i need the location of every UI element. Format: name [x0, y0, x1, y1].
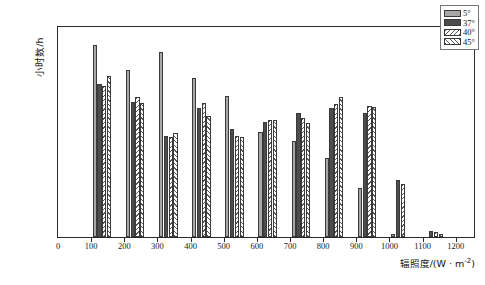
- x-axis-tick-label: 1100: [414, 241, 431, 251]
- bar: [372, 107, 376, 237]
- legend-item: 45°: [444, 37, 475, 46]
- bar: [169, 137, 173, 237]
- x-axis-tick-mark: [191, 238, 192, 242]
- legend: 5°37°40°45°: [440, 5, 479, 50]
- bar: [301, 118, 305, 237]
- x-axis-tick-label: 200: [118, 241, 131, 251]
- bar: [126, 70, 130, 237]
- x-axis-tick-mark: [356, 238, 357, 242]
- bar: [102, 86, 106, 237]
- x-axis-tick-mark: [91, 238, 92, 242]
- bar: [367, 106, 371, 237]
- legend-label: 37°: [463, 19, 475, 27]
- bar: [358, 188, 362, 237]
- bar: [401, 184, 405, 237]
- bar: [159, 52, 163, 238]
- bar: [206, 116, 210, 237]
- bar: [396, 180, 400, 237]
- bar: [273, 120, 277, 237]
- bar: [429, 231, 433, 237]
- x-axis-tick-label: 400: [184, 241, 197, 251]
- x-axis-tick-label: 600: [251, 241, 264, 251]
- x-axis-title-tail: ): [471, 258, 475, 269]
- bar: [258, 132, 262, 237]
- legend-swatch: [444, 10, 461, 17]
- x-axis-tick-label: 800: [317, 241, 330, 251]
- bar: [268, 120, 272, 237]
- bar: [339, 97, 343, 237]
- bar: [131, 102, 135, 237]
- x-axis-tick-mark: [290, 238, 291, 242]
- bar: [202, 103, 206, 237]
- bar: [325, 158, 329, 237]
- bar: [230, 129, 234, 237]
- x-axis-tick-label: 1200: [447, 241, 464, 251]
- bar: [363, 113, 367, 237]
- bar: [439, 234, 443, 237]
- legend-item: 40°: [444, 28, 475, 37]
- x-axis-tick-label: 300: [151, 241, 164, 251]
- bar: [329, 108, 333, 238]
- x-axis-tick-label: 100: [85, 241, 98, 251]
- bars-layer: [58, 27, 474, 237]
- x-axis-tick-mark: [323, 238, 324, 242]
- x-axis-title: 辐照度/(W · m-2): [400, 256, 475, 270]
- x-axis-tick-mark: [124, 238, 125, 242]
- bar: [225, 96, 229, 237]
- legend-swatch: [444, 19, 461, 26]
- bar: [434, 232, 438, 237]
- legend-item: 5°: [444, 9, 475, 18]
- x-axis-tick-mark: [423, 238, 424, 242]
- y-axis: 0100200300400500600: [0, 0, 57, 285]
- x-axis-tick-label: 1000: [381, 241, 398, 251]
- x-axis-tick-label: 0: [56, 241, 60, 251]
- x-axis-tick-mark: [389, 238, 390, 242]
- bar: [135, 97, 139, 237]
- bar: [140, 103, 144, 237]
- x-axis-tick-mark: [157, 238, 158, 242]
- x-axis-tick-label: 500: [217, 241, 230, 251]
- bar: [306, 123, 310, 237]
- legend-swatch: [444, 38, 461, 45]
- x-axis-tick-mark: [224, 238, 225, 242]
- bar: [296, 113, 300, 237]
- bar: [235, 136, 239, 237]
- legend-label: 40°: [463, 28, 475, 36]
- legend-item: 37°: [444, 18, 475, 27]
- x-axis-tick-label: 700: [284, 241, 297, 251]
- bar: [107, 76, 111, 237]
- bar-chart: 小时数/h 0100200300400500600 辐照度/(W · m-2) …: [0, 0, 485, 285]
- bar: [97, 84, 101, 237]
- bar: [173, 133, 177, 237]
- bar: [391, 234, 395, 238]
- legend-label: 45°: [463, 38, 475, 46]
- bar: [240, 137, 244, 237]
- bar: [292, 141, 296, 237]
- legend-label: 5°: [463, 9, 471, 17]
- legend-swatch: [444, 29, 461, 36]
- x-axis-tick-label: 900: [350, 241, 363, 251]
- bar: [197, 108, 201, 237]
- bar: [334, 104, 338, 237]
- x-axis-tick-mark: [257, 238, 258, 242]
- bar: [93, 45, 97, 238]
- bar: [164, 136, 168, 238]
- x-axis-title-main: 辐照度/(W · m: [400, 258, 465, 269]
- bar: [192, 78, 196, 237]
- bar: [263, 122, 267, 238]
- x-axis-tick-mark: [456, 238, 457, 242]
